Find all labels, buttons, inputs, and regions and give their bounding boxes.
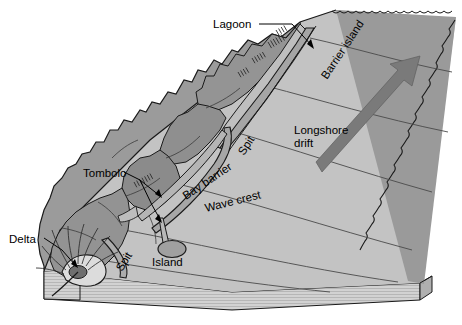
island-shape [158,241,186,258]
label-delta: Delta [9,233,36,245]
label-island: Island [152,256,183,268]
coastal-landforms-diagram: Lagoon Barrier island Longshore drift Sp… [0,0,462,325]
label-tombolo: Tombolo [83,167,126,179]
label-longshore-drift-line1: Longshore [294,124,348,136]
label-longshore-drift-line2: drift [294,137,314,149]
diagram-canvas: Lagoon Barrier island Longshore drift Sp… [0,0,462,325]
label-lagoon: Lagoon [213,18,251,30]
